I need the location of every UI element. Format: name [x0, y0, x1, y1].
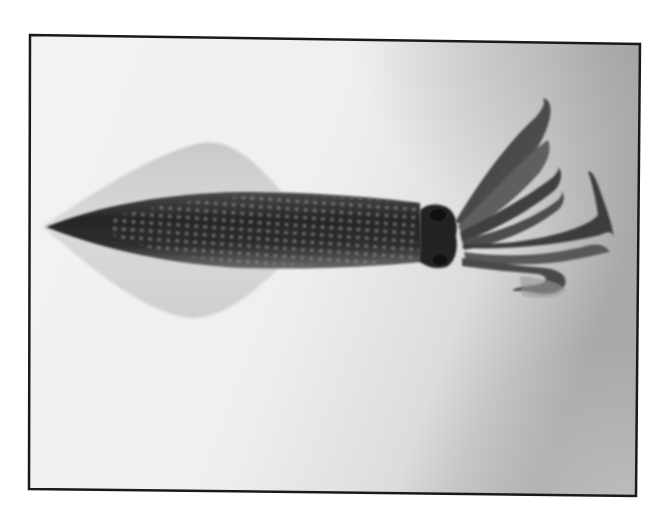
squid-photograph — [0, 0, 662, 529]
photo-background — [0, 0, 662, 529]
squid-eye — [433, 255, 447, 265]
squid-eye — [430, 209, 446, 221]
